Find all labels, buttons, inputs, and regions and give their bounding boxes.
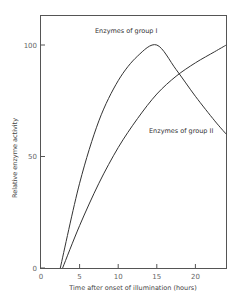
x-tick-label: 5 bbox=[77, 273, 81, 281]
group-2-label: Enzymes of group II bbox=[149, 127, 213, 135]
group-1-curve bbox=[60, 45, 226, 268]
y-tick-label: 0 bbox=[33, 265, 37, 273]
x-tick-label: 20 bbox=[191, 273, 200, 281]
x-tick-label: 0 bbox=[39, 273, 43, 281]
y-axis-ticks: 050100 bbox=[24, 42, 45, 273]
x-axis-title: Time after onset of illumination (hours) bbox=[68, 284, 197, 292]
y-tick-label: 50 bbox=[28, 153, 37, 161]
y-tick-label: 100 bbox=[24, 42, 37, 50]
x-tick-label: 15 bbox=[152, 273, 161, 281]
x-tick-label: 10 bbox=[114, 273, 123, 281]
y-axis-title: Relative enzyme activity bbox=[11, 118, 19, 198]
enzyme-activity-chart: 050100 05101520 Enzymes of group I Enzym… bbox=[0, 0, 239, 302]
group-1-label: Enzymes of group I bbox=[95, 27, 158, 35]
